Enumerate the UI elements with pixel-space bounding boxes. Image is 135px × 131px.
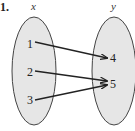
domain-element-1: 1	[27, 37, 33, 51]
range-element-5: 5	[110, 77, 116, 91]
mapping-diagram: 1. x y 1 2 3 4 5	[0, 0, 135, 131]
domain-title: x	[30, 0, 36, 12]
range-element-4: 4	[110, 51, 116, 65]
range-title: y	[110, 0, 116, 12]
problem-label: 1.	[0, 0, 9, 14]
domain-element-2: 2	[27, 65, 33, 79]
domain-ellipse	[12, 17, 56, 125]
domain-element-3: 3	[27, 93, 33, 107]
range-ellipse	[92, 17, 135, 125]
